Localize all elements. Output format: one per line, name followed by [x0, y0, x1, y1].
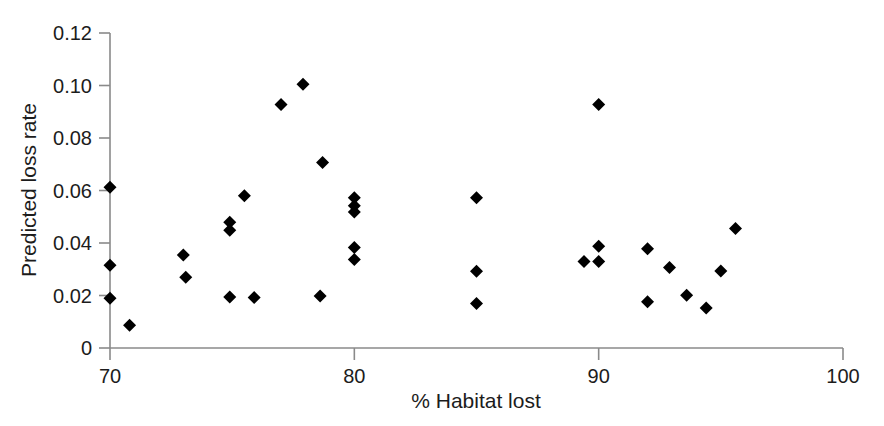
- x-axis-title: % Habitat lost: [411, 389, 541, 412]
- data-point-marker: [177, 249, 190, 262]
- data-point-series: [104, 78, 742, 332]
- scatter-plot-figure: 00.020.040.060.080.100.12 Predicted loss…: [0, 0, 884, 426]
- y-tick-label: 0.02: [53, 285, 92, 307]
- y-axis-tick-labels: 00.020.040.060.080.100.12: [53, 22, 92, 359]
- data-point-marker: [123, 319, 136, 332]
- data-point-marker: [348, 253, 361, 266]
- data-point-marker: [680, 289, 693, 302]
- data-point-marker: [179, 271, 192, 284]
- data-point-marker: [223, 224, 236, 237]
- data-point-marker: [714, 265, 727, 278]
- data-point-marker: [641, 295, 654, 308]
- data-point-marker: [470, 191, 483, 204]
- y-tick-label: 0: [81, 337, 92, 359]
- x-tick-label: 100: [826, 365, 859, 387]
- data-point-marker: [729, 222, 742, 235]
- y-tick-label: 0.04: [53, 232, 92, 254]
- data-point-marker: [641, 242, 654, 255]
- x-axis-group: 708090100 % Habitat lost: [99, 348, 860, 412]
- plot-canvas: 00.020.040.060.080.100.12 Predicted loss…: [0, 0, 884, 426]
- data-point-marker: [592, 240, 605, 253]
- data-point-marker: [470, 297, 483, 310]
- data-point-marker: [592, 255, 605, 268]
- data-point-marker: [314, 290, 327, 303]
- y-axis-group: 00.020.040.060.080.100.12 Predicted loss…: [17, 22, 110, 359]
- x-tick-label: 70: [99, 365, 121, 387]
- data-point-marker: [348, 241, 361, 254]
- data-point-marker: [275, 98, 288, 111]
- y-tick-label: 0.08: [53, 127, 92, 149]
- y-axis-title: Predicted loss rate: [17, 103, 40, 277]
- data-point-marker: [297, 78, 310, 91]
- data-point-marker: [578, 255, 591, 268]
- x-tick-label: 90: [588, 365, 610, 387]
- x-axis-ticks: [110, 348, 843, 360]
- y-tick-label: 0.12: [53, 22, 92, 44]
- x-tick-label: 80: [343, 365, 365, 387]
- data-point-marker: [663, 261, 676, 274]
- data-point-marker: [238, 189, 251, 202]
- y-tick-label: 0.10: [53, 75, 92, 97]
- y-tick-label: 0.06: [53, 180, 92, 202]
- data-point-marker: [104, 259, 117, 272]
- data-point-marker: [316, 156, 329, 169]
- data-point-marker: [700, 302, 713, 315]
- data-point-marker: [592, 98, 605, 111]
- data-point-marker: [223, 291, 236, 304]
- data-point-marker: [248, 291, 261, 304]
- data-point-marker: [104, 181, 117, 194]
- data-point-marker: [104, 292, 117, 305]
- x-axis-tick-labels: 708090100: [99, 365, 860, 387]
- data-point-marker: [470, 265, 483, 278]
